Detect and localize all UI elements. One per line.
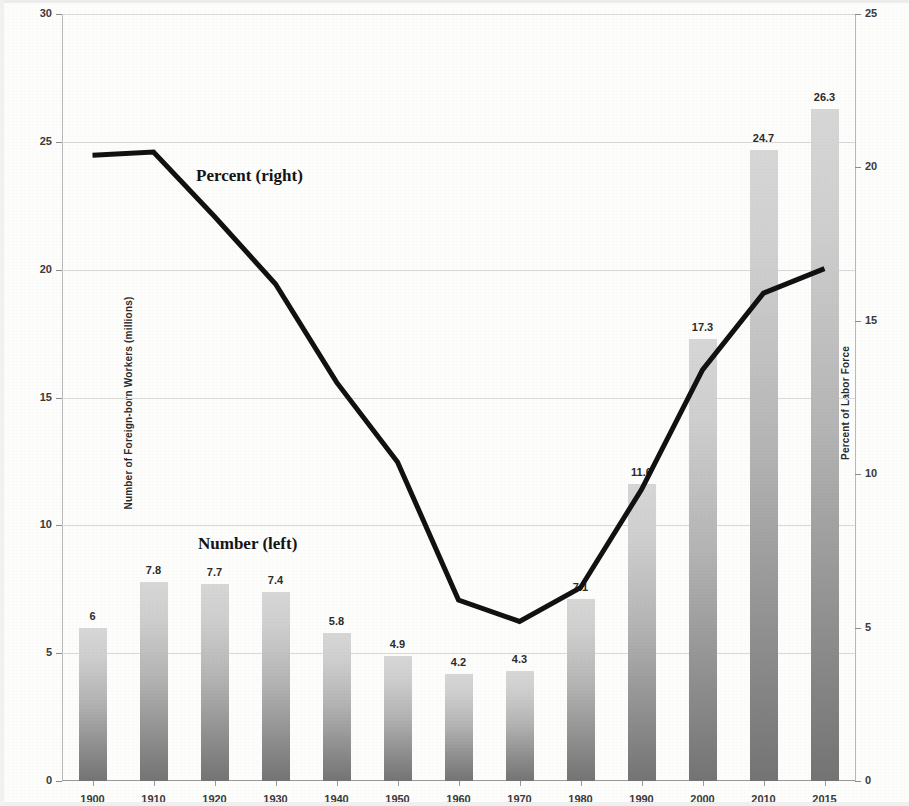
left-axis-tick-label: 20: [40, 264, 52, 275]
right-axis-tick-label: 25: [865, 8, 877, 19]
line-series: [62, 14, 855, 781]
right-axis-tick-label: 0: [865, 775, 871, 786]
x-axis-tick: [764, 781, 765, 786]
x-axis-tick: [703, 781, 704, 786]
right-axis-tick-label: 20: [865, 161, 877, 172]
percent-series-annotation: Percent (right): [196, 166, 303, 186]
left-axis-tick-label: 5: [46, 647, 52, 658]
right-axis-tick-label: 5: [865, 622, 871, 633]
x-axis-tick: [276, 781, 277, 786]
plot-area: 051015202530 0510152025 1900191019201930…: [62, 14, 855, 781]
x-axis-tick: [642, 781, 643, 786]
left-axis-tick-label: 0: [46, 775, 52, 786]
x-axis-tick: [520, 781, 521, 786]
right-axis-tick: [855, 628, 861, 629]
scan-edge-left: [0, 0, 4, 806]
chart-figure: Number of Foreign-born Workers (millions…: [0, 0, 909, 806]
scan-edge-top: [0, 0, 909, 3]
x-axis-tick: [398, 781, 399, 786]
right-axis-tick: [855, 321, 861, 322]
right-axis-tick: [855, 781, 861, 782]
right-axis-tick: [855, 167, 861, 168]
x-axis-tick: [93, 781, 94, 786]
x-axis-tick: [459, 781, 460, 786]
right-axis-tick-label: 15: [865, 315, 877, 326]
left-axis-tick: [56, 781, 62, 782]
number-series-annotation: Number (left): [198, 534, 297, 554]
right-axis-tick: [855, 474, 861, 475]
scan-edge-bottom: [0, 802, 909, 806]
left-axis-tick-label: 10: [40, 519, 52, 530]
left-axis-tick-label: 15: [40, 392, 52, 403]
right-axis-tick: [855, 14, 861, 15]
left-axis-tick-label: 25: [40, 136, 52, 147]
left-axis-tick-label: 30: [40, 8, 52, 19]
x-axis-tick: [581, 781, 582, 786]
x-axis-tick: [825, 781, 826, 786]
right-axis-tick-label: 10: [865, 468, 877, 479]
right-axis-line: [855, 14, 856, 781]
x-axis-tick: [337, 781, 338, 786]
x-axis-tick: [154, 781, 155, 786]
x-axis-tick: [215, 781, 216, 786]
